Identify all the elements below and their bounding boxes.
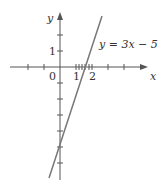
y-tick-label-1: 1: [49, 45, 56, 58]
y-axis-arrow-icon: [57, 12, 63, 20]
line-y-equals-3x-minus-5: [49, 16, 102, 178]
origin-label: 0: [49, 70, 56, 83]
x-tick-label-2: 2: [89, 70, 96, 83]
x-axis-arrow-icon: [140, 64, 148, 70]
equation-label: y = 3x − 5: [98, 38, 158, 51]
y-axis-label: y: [46, 12, 54, 25]
x-tick-label-1: 1: [73, 70, 80, 83]
x-axis-label: x: [150, 70, 157, 83]
graph: y x 0 1 1 2 y = 3x − 5: [0, 0, 163, 180]
